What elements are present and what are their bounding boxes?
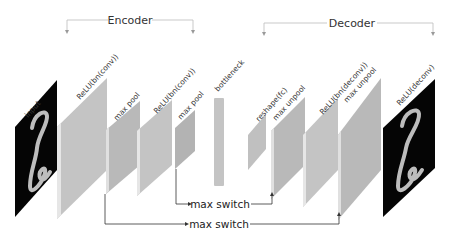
max-switch-label-1: max switch	[190, 198, 250, 210]
layer-dec-deconv1	[303, 98, 338, 207]
layer-bottleneck	[214, 98, 224, 186]
autoencoder-diagram: Encoder Decoder input ReLU(bn(conv)) max…	[0, 0, 451, 238]
output-image	[383, 79, 435, 217]
layer-enc-pool2	[175, 110, 195, 169]
decoder-bracket: Decoder	[262, 17, 435, 36]
layer-enc-conv2	[137, 100, 172, 196]
layer-dec-reshape	[248, 114, 266, 170]
encoder-label: Encoder	[108, 14, 153, 27]
max-switch-label-2: max switch	[189, 218, 249, 230]
encoder-bracket: Encoder	[65, 14, 195, 34]
decoder-label: Decoder	[329, 17, 376, 30]
layer-label-bottleneck: bottleneck	[213, 57, 247, 93]
